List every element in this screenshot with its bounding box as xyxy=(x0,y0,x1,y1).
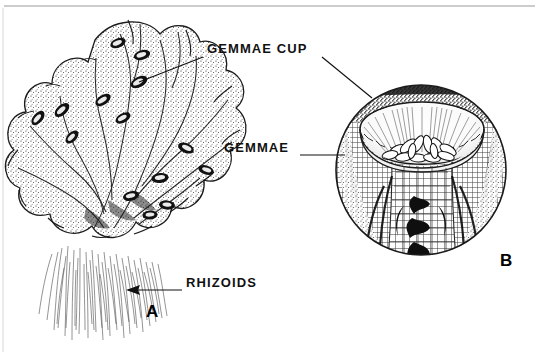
label-rhizoids: RHIZOIDS xyxy=(186,276,257,289)
botanical-figure: GEMMAE CUP GEMMAE RHIZOIDS A B xyxy=(0,0,539,355)
rhizoids-mass xyxy=(39,246,167,340)
panel-label-b: B xyxy=(500,252,513,269)
label-gemmae: GEMMAE xyxy=(224,141,289,154)
gemma-cup-inset xyxy=(330,74,516,268)
panel-label-a: A xyxy=(146,303,159,320)
leader-gemmae-cup-right xyxy=(322,57,372,98)
label-gemmae-cup: GEMMAE CUP xyxy=(207,42,308,55)
thallus-illustration xyxy=(5,20,246,340)
rhizoids-arrowhead xyxy=(126,285,140,295)
